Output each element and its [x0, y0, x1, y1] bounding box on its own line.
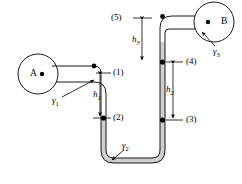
point-1-dot: [92, 64, 97, 69]
gamma1-subscript: 1: [56, 100, 59, 107]
h3-subscript: 3: [137, 39, 140, 46]
h2-subscript: 2: [171, 89, 174, 96]
point-5-dot: [160, 14, 165, 19]
dimension-h1-label: h1: [93, 90, 101, 101]
point-4-dot: [160, 59, 165, 64]
point-3-label: (3): [186, 115, 197, 124]
dimension-h3-label: h3: [132, 35, 140, 46]
point-1-label: (1): [113, 68, 124, 77]
fluid-gamma2-fill: [101, 42, 165, 163]
figure-canvas: A B (1) (2) (3) (4) (5) h1 h2 h3 γ1 γ2 γ…: [0, 0, 242, 184]
gamma2-subscript: 2: [126, 145, 129, 152]
tank-b-outline: [194, 2, 234, 42]
tank-a-label: A: [30, 69, 37, 79]
dimension-h2-label: h2: [166, 85, 174, 96]
gamma1-leader: [62, 80, 94, 97]
tank-a-outline: [18, 54, 58, 94]
tank-b-point-dot: [206, 20, 210, 24]
tank-b-label: B: [221, 17, 227, 27]
u-tube-walls: [101, 42, 165, 163]
fluid-gamma2-label: γ2: [122, 141, 129, 152]
tank-a-point-dot: [40, 72, 44, 76]
fluid-gamma1-label: γ1: [52, 96, 59, 107]
point-3-dot: [160, 117, 165, 122]
point-leader-lines: [93, 18, 183, 120]
h1-subscript: 1: [98, 94, 101, 101]
point-4-label: (4): [186, 57, 197, 66]
fluid-gamma3-label: γ3: [213, 47, 220, 58]
fluid-leader-arrows: [62, 32, 215, 160]
manometer-diagram-svg: [0, 0, 242, 184]
point-5-label: (5): [111, 13, 122, 22]
gamma3-subscript: 3: [217, 51, 220, 58]
point-2-label: (2): [113, 113, 124, 122]
